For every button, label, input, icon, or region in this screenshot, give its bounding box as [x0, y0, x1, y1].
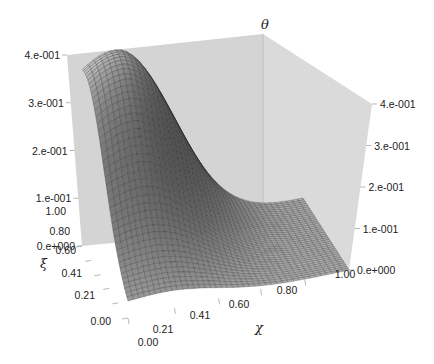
tick-mark [174, 308, 175, 314]
tick-label: 0.e+000 [357, 264, 395, 276]
tick-label: 1.00 [46, 205, 67, 217]
tick-label: 2.e-001 [32, 145, 68, 157]
tick-mark [112, 303, 118, 304]
tick-label: 0.00 [138, 336, 159, 348]
tick-mark [76, 246, 82, 247]
tick-mark [94, 275, 100, 276]
tick-mark [85, 260, 91, 261]
tick-label: 0.60 [229, 298, 250, 310]
tick-label: 1.00 [335, 268, 356, 280]
tick-label: 0.21 [153, 323, 174, 335]
tick-mark [219, 298, 220, 304]
tick-label: 0.80 [277, 284, 298, 296]
tick-label: 4.e-001 [380, 98, 416, 110]
tick-mark [128, 318, 129, 324]
surface-plot: 0.e+0001.e-0012.e-0013.e-0014.e-001 0.e+… [0, 0, 434, 364]
tick-mark [305, 280, 306, 286]
tick-label: 0.21 [75, 289, 96, 301]
tick-label: 4.e-001 [24, 49, 60, 61]
tick-mark [261, 289, 262, 295]
tick-label: 0.41 [62, 267, 83, 279]
tick-label: 0.60 [56, 244, 77, 256]
tick-label: 0.00 [91, 315, 112, 327]
x-axis-label: χ [254, 320, 264, 335]
tick-label: 3.e-001 [28, 97, 64, 109]
tick-mark [122, 318, 128, 319]
tick-label: 3.e-001 [374, 140, 410, 152]
tick-label: 2.e-001 [369, 181, 405, 193]
tick-label: 1.e-001 [36, 192, 72, 204]
z-axis-label: θ [261, 17, 269, 32]
tick-label: 1.e-001 [363, 223, 399, 235]
tick-label: 0.80 [50, 225, 71, 237]
y-axis-label: ξ [40, 256, 48, 271]
tick-mark [103, 288, 109, 289]
tick-label: 0.41 [190, 309, 211, 321]
